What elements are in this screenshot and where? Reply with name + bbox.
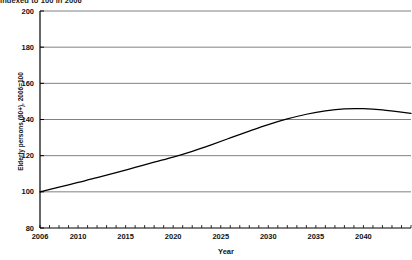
plot-area — [0, 0, 412, 260]
x-tick-label-2030: 2030 — [248, 232, 288, 241]
y-tick-label-160: 160 — [4, 79, 34, 88]
y-tick-label-140: 140 — [4, 115, 34, 124]
x-tick-label-2040: 2040 — [343, 232, 383, 241]
gridlines — [40, 11, 411, 192]
x-tick-label-2020: 2020 — [153, 232, 193, 241]
data-line-elderly-index — [40, 109, 411, 192]
y-tick-label-100: 100 — [4, 187, 34, 196]
y-tick-label-120: 120 — [4, 151, 34, 160]
x-tick-label-2025: 2025 — [201, 232, 241, 241]
y-tick-label-200: 200 — [4, 7, 34, 16]
chart-container: indexed to 100 in 2006 Elderly persons (… — [0, 0, 412, 260]
x-tick-label-2006: 2006 — [20, 232, 60, 241]
x-tick-label-2010: 2010 — [58, 232, 98, 241]
x-tick-label-2035: 2035 — [296, 232, 336, 241]
x-tick-label-2015: 2015 — [106, 232, 146, 241]
y-tick-label-180: 180 — [4, 43, 34, 52]
